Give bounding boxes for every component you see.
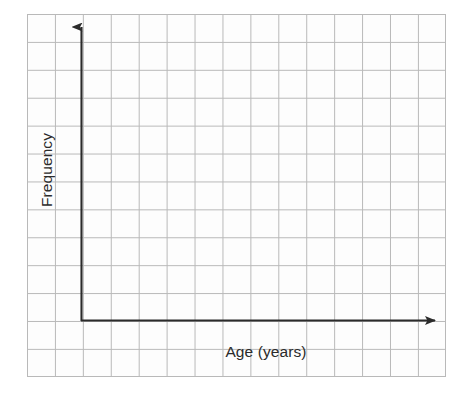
y-axis-label: Frequency [39,123,55,217]
axes-layer [0,0,468,398]
x-axis-label: Age (years) [166,344,366,360]
graph-canvas: Frequency Age (years) [0,0,468,398]
